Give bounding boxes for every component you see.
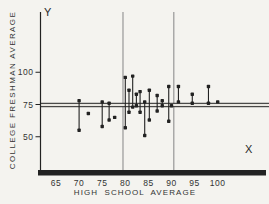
data-point bbox=[167, 120, 170, 123]
data-point bbox=[131, 105, 134, 108]
data-point bbox=[113, 116, 116, 119]
x-tick-label: 65 bbox=[51, 178, 61, 188]
data-point bbox=[170, 104, 173, 107]
data-point bbox=[155, 94, 158, 97]
y-tick-label: 100 bbox=[18, 67, 34, 77]
data-point bbox=[177, 100, 180, 103]
data-point bbox=[207, 85, 210, 88]
data-point bbox=[101, 100, 104, 103]
x-tick-label: 95 bbox=[189, 178, 199, 188]
y-axis-letter: Y bbox=[44, 6, 51, 18]
data-point bbox=[167, 85, 170, 88]
data-point bbox=[107, 102, 110, 105]
x-axis-letter: X bbox=[245, 143, 252, 155]
data-point bbox=[131, 74, 134, 77]
y-tick-label: 75 bbox=[23, 100, 33, 110]
x-axis-title: HIGH SCHOOL AVERAGE bbox=[55, 188, 215, 197]
data-point bbox=[77, 129, 80, 132]
data-point bbox=[135, 92, 138, 95]
data-point bbox=[148, 89, 151, 92]
data-point bbox=[191, 92, 194, 95]
data-point bbox=[216, 100, 219, 103]
scatter-figure: 100755065707580859095100 COLLEGE FRESHMA… bbox=[0, 0, 269, 204]
data-point bbox=[101, 125, 104, 128]
data-point bbox=[161, 99, 164, 102]
data-point bbox=[177, 85, 180, 88]
data-point bbox=[107, 118, 110, 121]
data-point bbox=[127, 111, 130, 114]
data-point bbox=[148, 118, 151, 121]
scatter-plot-canvas: 100755065707580859095100 bbox=[0, 0, 269, 204]
data-point bbox=[77, 99, 80, 102]
data-point bbox=[143, 100, 146, 103]
y-tick-label: 50 bbox=[23, 132, 33, 142]
data-point bbox=[143, 134, 146, 137]
data-point bbox=[127, 89, 130, 92]
data-point bbox=[138, 111, 141, 114]
x-tick-label: 75 bbox=[97, 178, 107, 188]
x-tick-label: 80 bbox=[120, 178, 130, 188]
data-point bbox=[191, 102, 194, 105]
x-axis-bar bbox=[38, 170, 266, 176]
mean-band bbox=[40, 103, 269, 106]
data-point bbox=[87, 112, 90, 115]
data-point bbox=[124, 76, 127, 79]
x-tick-label: 100 bbox=[210, 178, 226, 188]
data-point bbox=[124, 126, 127, 129]
data-point bbox=[135, 104, 138, 107]
y-axis-title: COLLEGE FRESHMAN AVERAGE bbox=[8, 10, 20, 170]
x-tick-label: 90 bbox=[166, 178, 176, 188]
data-point bbox=[155, 109, 158, 112]
data-point bbox=[207, 102, 210, 105]
x-tick-label: 85 bbox=[143, 178, 153, 188]
x-tick-label: 70 bbox=[74, 178, 84, 188]
data-point bbox=[138, 90, 141, 93]
data-point bbox=[161, 104, 164, 107]
